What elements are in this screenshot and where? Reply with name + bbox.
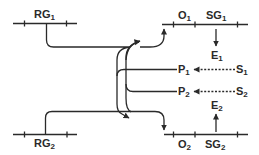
label-rg2: RG2 [34,138,55,151]
regulation-diagram [0,0,259,155]
label-e1: E1 [211,50,223,63]
label-sg1: SG1 [206,10,226,23]
rg1-to-o2-connector [47,24,131,119]
label-o1: O1 [178,10,191,23]
rg2-to-o1-arrow [126,41,140,60]
label-s1: S1 [236,64,248,77]
rg2-to-o1-connector [46,42,140,135]
operon1-line [162,22,248,28]
label-s2: S2 [236,86,248,99]
operon2-line [164,132,248,138]
o2-inflow-arrow [130,112,164,131]
label-p2: P2 [178,86,190,99]
label-p1: P1 [178,64,190,77]
p2-to-o1-connector [126,84,177,92]
label-sg2: SG2 [205,139,225,152]
o1-inflow-arrow [140,29,164,47]
label-o2: O2 [178,139,191,152]
label-e2: E2 [211,100,223,113]
label-rg1: RG1 [34,9,55,22]
